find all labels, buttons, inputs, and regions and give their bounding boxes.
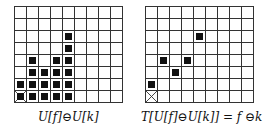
grid-cell bbox=[206, 91, 218, 103]
grid-cell bbox=[27, 79, 39, 91]
grid-cell bbox=[51, 67, 63, 79]
grid-cell bbox=[87, 55, 99, 67]
grid-cell bbox=[242, 31, 254, 43]
filled-square-icon bbox=[148, 81, 155, 88]
filled-square-icon bbox=[17, 93, 24, 100]
grid-cell bbox=[146, 67, 158, 79]
grid-cell bbox=[230, 43, 242, 55]
grid-cell bbox=[182, 79, 194, 91]
filled-square-icon bbox=[29, 81, 36, 88]
grid-cell bbox=[63, 19, 75, 31]
grid-cell bbox=[99, 7, 111, 19]
filled-square-icon bbox=[53, 93, 60, 100]
grid-cell bbox=[75, 19, 87, 31]
right-panel bbox=[145, 6, 254, 103]
grid-cell bbox=[206, 7, 218, 19]
grid-cell bbox=[194, 7, 206, 19]
grid-cell bbox=[206, 55, 218, 67]
filled-square-icon bbox=[65, 57, 72, 64]
filled-square-icon bbox=[29, 57, 36, 64]
grid-cell bbox=[39, 91, 51, 103]
filled-square-icon bbox=[65, 33, 72, 40]
grid-cell bbox=[51, 19, 63, 31]
filled-square-icon bbox=[41, 93, 48, 100]
grid-cell bbox=[75, 31, 87, 43]
grid-cell bbox=[15, 67, 27, 79]
grid-cell bbox=[63, 43, 75, 55]
grid-cell bbox=[87, 31, 99, 43]
grid-cell bbox=[99, 67, 111, 79]
grid-cell bbox=[242, 55, 254, 67]
grid-cell bbox=[75, 79, 87, 91]
grid-cell bbox=[27, 19, 39, 31]
grid-cell bbox=[194, 79, 206, 91]
grid-cell bbox=[158, 55, 170, 67]
grid-cell bbox=[111, 91, 123, 103]
grid-cell bbox=[146, 91, 158, 103]
grid-cell bbox=[242, 43, 254, 55]
grid-cell bbox=[218, 19, 230, 31]
grid-cell bbox=[194, 31, 206, 43]
grid-cell bbox=[218, 7, 230, 19]
grid-cell bbox=[218, 79, 230, 91]
grid-cell bbox=[87, 19, 99, 31]
grid-cell bbox=[51, 7, 63, 19]
grid-cell bbox=[230, 91, 242, 103]
grid-cell bbox=[206, 79, 218, 91]
grid-cell bbox=[99, 55, 111, 67]
grid-cell bbox=[27, 7, 39, 19]
grid-cell bbox=[158, 31, 170, 43]
grid-cell bbox=[99, 31, 111, 43]
grid-cell bbox=[230, 79, 242, 91]
grid-cell bbox=[39, 43, 51, 55]
grid-cell bbox=[182, 7, 194, 19]
grid-cell bbox=[15, 79, 27, 91]
grid-cell bbox=[230, 55, 242, 67]
grid-cell bbox=[111, 79, 123, 91]
grid-cell bbox=[182, 91, 194, 103]
grid-cell bbox=[170, 19, 182, 31]
filled-square-icon bbox=[172, 69, 179, 76]
grid-cell bbox=[27, 67, 39, 79]
grid-cell bbox=[194, 67, 206, 79]
left-caption: U[f]⊖U[k] bbox=[38, 110, 99, 124]
grid-cell bbox=[15, 91, 27, 103]
grid-cell bbox=[194, 91, 206, 103]
grid-cell bbox=[218, 31, 230, 43]
grid-cell bbox=[39, 19, 51, 31]
grid-cell bbox=[51, 31, 63, 43]
filled-square-icon bbox=[41, 81, 48, 88]
grid-cell bbox=[27, 31, 39, 43]
grid-cell bbox=[182, 19, 194, 31]
grid-cell bbox=[170, 31, 182, 43]
grid-cell bbox=[75, 67, 87, 79]
grid-cell bbox=[111, 43, 123, 55]
grid-cell bbox=[15, 19, 27, 31]
grid-cell bbox=[146, 55, 158, 67]
grid-cell bbox=[63, 91, 75, 103]
grid-cell bbox=[170, 67, 182, 79]
grid-cell bbox=[170, 79, 182, 91]
origin-x-icon bbox=[146, 91, 157, 102]
grid-cell bbox=[15, 31, 27, 43]
grid-cell bbox=[146, 79, 158, 91]
grid-cell bbox=[39, 7, 51, 19]
grid-cell bbox=[99, 79, 111, 91]
filled-square-icon bbox=[196, 33, 203, 40]
grid-cell bbox=[63, 7, 75, 19]
grid-cell bbox=[182, 55, 194, 67]
grid-cell bbox=[206, 31, 218, 43]
filled-square-icon bbox=[29, 93, 36, 100]
grid-cell bbox=[27, 55, 39, 67]
grid-cell bbox=[63, 67, 75, 79]
grid-cell bbox=[87, 67, 99, 79]
grid-cell bbox=[39, 67, 51, 79]
grid-cell bbox=[242, 91, 254, 103]
grid-cell bbox=[63, 31, 75, 43]
filled-square-icon bbox=[53, 69, 60, 76]
grid-cell bbox=[111, 55, 123, 67]
grid-cell bbox=[230, 7, 242, 19]
grid-cell bbox=[194, 55, 206, 67]
grid-cell bbox=[170, 43, 182, 55]
filled-square-icon bbox=[65, 93, 72, 100]
